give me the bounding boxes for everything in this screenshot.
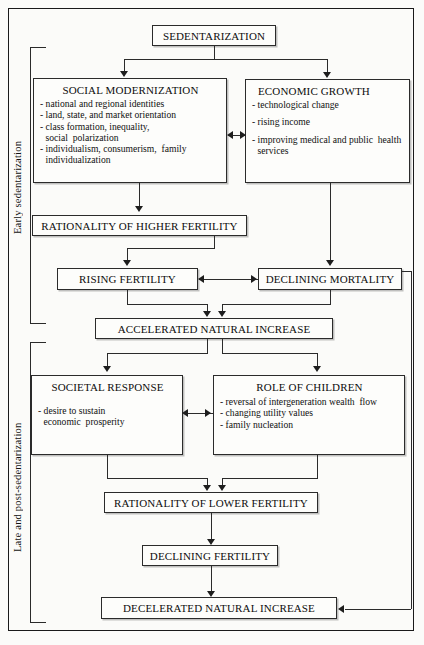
connector-declining-elbow xyxy=(222,304,331,305)
list-item: - changing utility values xyxy=(220,407,399,418)
node-rationality-lower-fertility: RATIONALITY OF LOWER FERTILITY xyxy=(104,492,318,513)
node-rationality-higher-fertility: RATIONALITY OF HIGHER FERTILITY xyxy=(32,215,247,236)
list-item: - desire to sustain economic prosperity xyxy=(38,405,177,428)
list-item: - improving medical and public health se… xyxy=(252,134,404,157)
arrowhead-rising-to-declining xyxy=(251,275,257,283)
node-social-modernization: SOCIAL MODERNIZATION - national and regi… xyxy=(33,78,227,183)
node-decelerated-natural-increase: DECELERATED NATURAL INCREASE xyxy=(101,597,337,619)
connector-accelerated-to-societal xyxy=(107,353,108,367)
node-declining-mortality: DECLINING MORTALITY xyxy=(258,268,402,290)
connector-accelerated-stem-left xyxy=(207,339,208,353)
connector-declining-stem xyxy=(330,290,331,304)
arrowhead-to-role-of-children xyxy=(313,366,321,372)
flowchart-figure: Early sedentarization Late and post-sede… xyxy=(0,0,424,645)
connector-declining-feedback-in xyxy=(345,609,411,610)
node-economic-growth: ECONOMIC GROWTH - technological change -… xyxy=(245,79,410,183)
connector-rationality-higher-elbow xyxy=(127,248,215,249)
connector-declining-feedback-out xyxy=(402,271,411,272)
arrowhead-economic-to-social xyxy=(227,131,233,139)
node-rationality-higher-fertility-label: RATIONALITY OF HIGHER FERTILITY xyxy=(41,220,237,232)
phase-label-late: Late and post-sedentarization xyxy=(12,375,23,600)
list-item: - class formation, inequality, social po… xyxy=(40,121,221,144)
connector-societal-stem xyxy=(107,455,108,478)
node-accelerated-natural-increase-label: ACCELERATED NATURAL INCREASE xyxy=(118,323,311,335)
connector-declining-feedback-vertical xyxy=(411,271,412,609)
arrowhead-to-declining-mortality xyxy=(326,260,334,266)
arrowhead-societal-to-rationality-lower xyxy=(203,485,211,491)
node-role-of-children-label: ROLE OF CHILDREN xyxy=(220,381,399,393)
node-declining-mortality-label: DECLINING MORTALITY xyxy=(266,273,395,285)
arrowhead-declining-to-accelerated xyxy=(218,311,226,317)
arrowhead-to-rising-fertility xyxy=(123,260,131,266)
societal-response-bullets: - desire to sustain economic prosperity xyxy=(38,405,177,428)
arrowhead-to-rationality-higher xyxy=(135,206,143,212)
node-decelerated-natural-increase-label: DECELERATED NATURAL INCREASE xyxy=(123,602,315,614)
list-item: - rising income xyxy=(252,116,404,127)
connector-rationality-higher-stem xyxy=(214,236,215,248)
connector-rising-declining xyxy=(199,279,258,280)
node-economic-growth-label: ECONOMIC GROWTH xyxy=(252,85,404,97)
connector-rising-elbow xyxy=(127,304,207,305)
node-role-of-children: ROLE OF CHILDREN - reversal of intergene… xyxy=(213,375,405,455)
phase-label-early: Early sedentarization xyxy=(12,100,23,275)
node-sedentarization-label: SEDENTARIZATION xyxy=(163,30,265,42)
list-item: - individualism, consumerism, family ind… xyxy=(40,143,221,166)
node-rising-fertility: RISING FERTILITY xyxy=(57,268,198,290)
connector-sed-split xyxy=(124,59,327,60)
list-item: - technological change xyxy=(252,99,404,110)
connector-accelerated-elbow-left xyxy=(107,353,208,354)
connector-accelerated-stem-right xyxy=(222,339,223,353)
node-rationality-lower-fertility-label: RATIONALITY OF LOWER FERTILITY xyxy=(114,497,308,509)
connector-rationality-lower-to-declining-fertility xyxy=(211,513,212,541)
list-item: - reversal of intergeneration wealth flo… xyxy=(220,396,399,407)
arrowhead-social-to-economic xyxy=(240,131,246,139)
connector-sed-to-economic xyxy=(327,59,328,73)
arrowhead-role-to-rationality-lower xyxy=(218,485,226,491)
connector-accelerated-to-role xyxy=(317,353,318,367)
arrowhead-feedback-to-decelerated xyxy=(338,605,344,613)
arrowhead-role-to-societal xyxy=(182,409,188,417)
connector-societal-elbow xyxy=(107,478,207,479)
connector-role-elbow xyxy=(222,478,318,479)
arrowhead-rising-to-accelerated xyxy=(203,311,211,317)
role-of-children-bullets: - reversal of intergeneration wealth flo… xyxy=(220,396,399,430)
connector-rising-stem xyxy=(127,290,128,304)
arrowhead-declining-to-rising xyxy=(198,275,204,283)
node-societal-response: SOCIETAL RESPONSE - desire to sustain ec… xyxy=(31,375,183,455)
connector-accelerated-elbow-right xyxy=(222,353,317,354)
arrowhead-societal-to-role xyxy=(205,409,211,417)
node-declining-fertility-label: DECLINING FERTILITY xyxy=(150,550,270,562)
node-sedentarization: SEDENTARIZATION xyxy=(152,25,276,46)
list-item: - land, state, and market orientation xyxy=(40,109,221,120)
node-social-modernization-label: SOCIAL MODERNIZATION xyxy=(40,84,221,96)
connector-declining-fertility-to-decelerated xyxy=(211,566,212,592)
node-accelerated-natural-increase: ACCELERATED NATURAL INCREASE xyxy=(95,318,333,339)
node-rising-fertility-label: RISING FERTILITY xyxy=(79,273,176,285)
arrowhead-to-social-modernization xyxy=(120,71,128,77)
arrowhead-to-societal-response xyxy=(103,366,111,372)
arrowhead-to-economic-growth xyxy=(323,72,331,78)
node-declining-fertility: DECLINING FERTILITY xyxy=(142,545,278,566)
connector-role-stem xyxy=(317,455,318,478)
list-item: - family nucleation xyxy=(220,419,399,430)
node-societal-response-label: SOCIETAL RESPONSE xyxy=(38,381,177,393)
economic-growth-bullets: - technological change - rising income -… xyxy=(252,99,404,156)
social-modernization-bullets: - national and regional identities - lan… xyxy=(40,98,221,166)
connector-economic-to-declining-mortality xyxy=(330,183,331,261)
connector-social-to-rationality-higher xyxy=(139,183,140,207)
list-item: - national and regional identities xyxy=(40,98,221,109)
connector-sed-stem xyxy=(214,46,215,59)
